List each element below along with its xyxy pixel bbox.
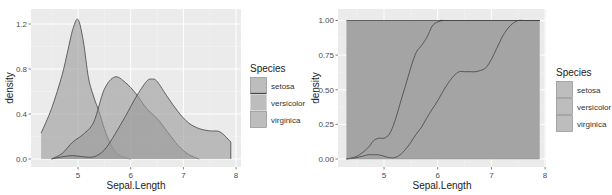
density-chart: 0.00.40.81.25678Sepal.LengthdensitySpeci… bbox=[0, 0, 306, 195]
filled-density-area bbox=[346, 21, 539, 160]
density-plot-svg: 0.00.40.81.25678Sepal.LengthdensitySpeci… bbox=[0, 0, 306, 195]
y-tick-label: 1.00 bbox=[318, 16, 334, 25]
legend-key-setosa: setosa bbox=[250, 77, 295, 94]
y-tick-label: 0.0 bbox=[16, 155, 28, 164]
legend-label-setosa: setosa bbox=[577, 86, 601, 95]
y-tick-label: 0.25 bbox=[318, 120, 334, 129]
x-axis-title: Sepal.Length bbox=[413, 180, 472, 191]
legend-label-versicolor: versicolor bbox=[577, 103, 612, 112]
x-tick-label: 6 bbox=[128, 171, 133, 180]
legend-title: Species bbox=[556, 67, 592, 78]
legend-label-virginica: virginica bbox=[271, 116, 301, 125]
legend-key-virginica: virginica bbox=[250, 111, 301, 128]
y-tick-label: 1.2 bbox=[16, 20, 28, 29]
x-tick-label: 8 bbox=[543, 171, 548, 180]
y-tick-label: 0.00 bbox=[318, 155, 334, 164]
x-tick-label: 6 bbox=[435, 171, 440, 180]
legend-key-virginica: virginica bbox=[556, 115, 607, 132]
x-tick-label: 8 bbox=[234, 171, 239, 180]
filled-density-plot-svg: 0.000.250.500.751.005678Sepal.Lengthdens… bbox=[306, 0, 612, 195]
x-tick-label: 5 bbox=[76, 171, 81, 180]
legend-key-setosa: setosa bbox=[556, 81, 601, 98]
y-axis-title: density bbox=[310, 72, 321, 104]
legend: Speciessetosaversicolorvirginica bbox=[556, 67, 612, 132]
y-axis-title: density bbox=[4, 72, 15, 104]
x-axis-title: Sepal.Length bbox=[107, 180, 166, 191]
legend-title: Species bbox=[250, 63, 286, 74]
legend-label-setosa: setosa bbox=[271, 82, 295, 91]
y-tick-label: 0.8 bbox=[16, 65, 28, 74]
x-tick-label: 7 bbox=[181, 171, 186, 180]
y-tick-label: 0.75 bbox=[318, 51, 334, 60]
x-tick-label: 7 bbox=[489, 171, 494, 180]
legend-label-versicolor: versicolor bbox=[271, 99, 306, 108]
filled-density-chart: 0.000.250.500.751.005678Sepal.Lengthdens… bbox=[306, 0, 612, 195]
legend-key-versicolor: versicolor bbox=[250, 94, 306, 111]
x-tick-label: 5 bbox=[382, 171, 387, 180]
legend-key-versicolor: versicolor bbox=[556, 98, 612, 115]
y-tick-label: 0.4 bbox=[16, 110, 28, 119]
legend: Speciessetosaversicolorvirginica bbox=[250, 63, 306, 128]
legend-label-virginica: virginica bbox=[577, 120, 607, 129]
